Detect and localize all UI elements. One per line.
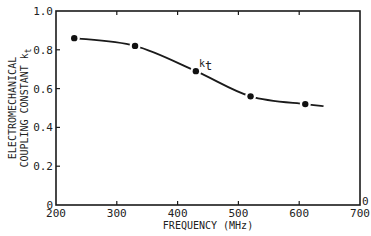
series-kt	[69, 33, 324, 110]
y-tick-label: 0.8	[33, 44, 53, 57]
y-tick-label: 1.0	[33, 5, 53, 18]
y-tick-label: 0.6	[33, 83, 53, 96]
y-axis-title-line1: ELECTROMECHANICAL	[7, 57, 18, 159]
y-tick-label: 0	[46, 199, 53, 212]
right-axis-zero-label: 0	[362, 195, 369, 208]
y-tick-label: 0.4	[33, 121, 53, 134]
data-point	[302, 101, 308, 107]
x-tick-label: 500	[228, 207, 248, 220]
chart: 200300400500600700 00.20.40.60.81.0 0 FR…	[0, 0, 371, 236]
data-point	[247, 93, 253, 99]
y-axis-title-line2: COUPLING CONSTANT kt	[19, 48, 33, 167]
data-point	[71, 35, 77, 41]
x-tick-label: 600	[289, 207, 309, 220]
x-axis-ticks: 200300400500600700	[46, 11, 370, 220]
x-tick-label: 700	[350, 207, 370, 220]
data-point	[132, 43, 138, 49]
x-tick-label: 300	[107, 207, 127, 220]
x-tick-label: 400	[168, 207, 188, 220]
y-tick-label: 0.2	[33, 160, 53, 173]
x-axis-title: FREQUENCY (MHz)	[163, 220, 253, 231]
y-axis-title: ELECTROMECHANICAL COUPLING CONSTANT kt	[7, 48, 33, 167]
